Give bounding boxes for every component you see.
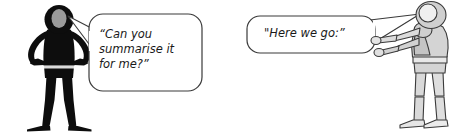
right-figure-lower-hand (374, 49, 384, 57)
figure-right-grey-mannequin (371, 2, 448, 129)
right-figure-front-leg-thigh (432, 72, 444, 96)
figure-right-group (0, 0, 466, 138)
right-figure-face-highlight (419, 4, 437, 22)
illustration-canvas: “Can you summarise it for me?” "Here we … (0, 0, 466, 138)
right-figure-front-leg-shin (435, 97, 446, 121)
right-figure-front-foot (424, 120, 448, 128)
right-figure-back-foot (400, 120, 425, 128)
right-figure-hand (371, 37, 381, 45)
right-figure-hips (414, 62, 446, 73)
right-figure-back-leg-shin (414, 97, 424, 121)
right-figure-lower-forearm (382, 46, 399, 55)
right-figure-back-leg-thigh (415, 72, 426, 96)
